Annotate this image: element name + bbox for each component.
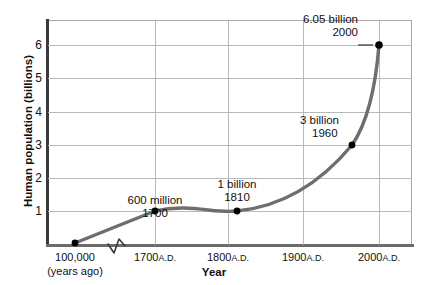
annotation-3-billion: 3 billion 1960 — [300, 114, 370, 140]
x-tick-label-100000: 100,000 — [35, 251, 115, 263]
x-tick-label-1900-year: 1900 — [282, 251, 306, 263]
x-tick-label-1900: 1900A.D. — [263, 251, 343, 264]
annotation-6-05-billion-line2: 2000 — [248, 26, 358, 39]
annotation-600-million-line2: 1700 — [95, 207, 215, 220]
x-tick-label-1800-year: 1800 — [207, 251, 231, 263]
x-tick-label-2000: 2000A.D. — [339, 251, 419, 264]
data-point-100000-years-ago — [72, 240, 79, 247]
x-tick-label-1900-suffix: A.D. — [306, 253, 324, 263]
x-axis-title: Year — [0, 266, 428, 278]
annotation-3-billion-line2: 1960 — [300, 127, 370, 140]
annotation-3-billion-line1: 3 billion — [300, 114, 370, 127]
x-tick-label-100000-text: 100,000 — [55, 251, 95, 263]
x-tick-label-1700: 1700A.D. — [115, 251, 195, 264]
chart-canvas — [0, 0, 428, 285]
x-tick-label-1700-suffix: A.D. — [158, 253, 176, 263]
annotation-1-billion: 1 billion 1810 — [178, 178, 296, 204]
data-point-1960 — [349, 142, 356, 149]
annotation-1-billion-line2: 1810 — [178, 191, 296, 204]
x-tick-label-1800: 1800A.D. — [188, 251, 268, 264]
x-tick-label-2000-suffix: A.D. — [382, 253, 400, 263]
annotation-1-billion-line1: 1 billion — [178, 178, 296, 191]
x-tick-label-2000-year: 2000 — [358, 251, 382, 263]
data-point-2000 — [375, 41, 383, 49]
annotation-6-05-billion-line1: 6.05 billion — [248, 13, 358, 26]
population-growth-chart: 6 5 4 3 2 1 Human population (billions) … — [0, 0, 428, 285]
annotation-6-05-billion: 6.05 billion 2000 — [248, 13, 358, 39]
x-tick-label-1800-suffix: A.D. — [231, 253, 249, 263]
x-tick-label-1700-year: 1700 — [134, 251, 158, 263]
data-point-1810 — [234, 208, 241, 215]
